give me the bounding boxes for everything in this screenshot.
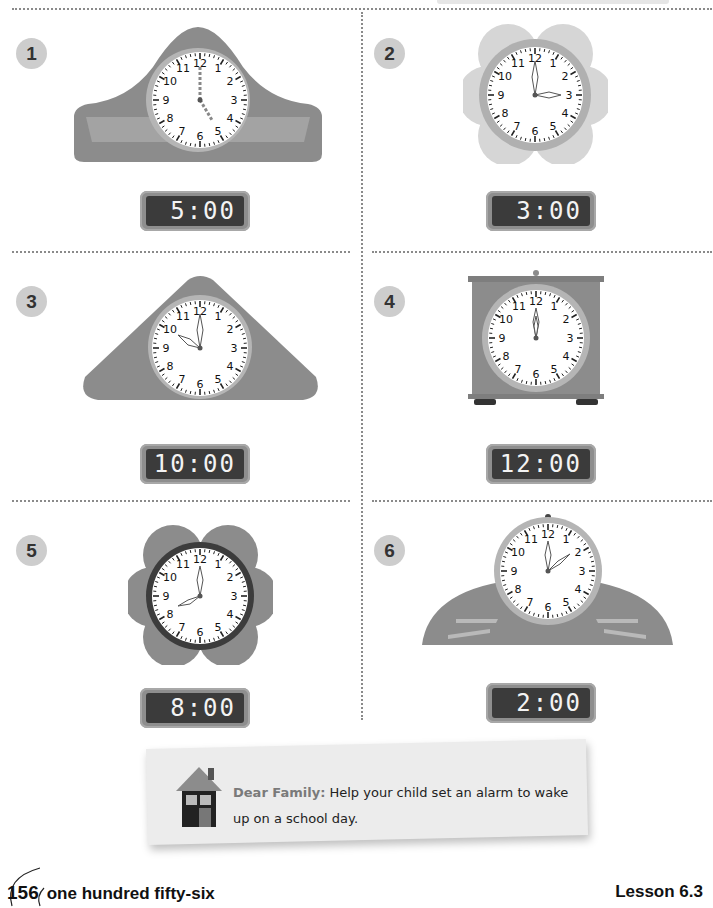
svg-text:1: 1 xyxy=(550,57,557,70)
clock-face: 12123 4567 891011 xyxy=(485,45,585,145)
svg-text:3: 3 xyxy=(231,342,238,355)
digital-clock-display: 10:00 xyxy=(140,444,250,484)
svg-text:9: 9 xyxy=(163,342,170,355)
svg-text:5: 5 xyxy=(550,120,557,133)
svg-text:5: 5 xyxy=(563,596,570,609)
family-note-text: Dear Family: Help your child set an alar… xyxy=(233,780,578,832)
problem-number-badge: 5 xyxy=(16,535,47,566)
svg-text:8: 8 xyxy=(167,360,174,373)
digital-time: 5:00 xyxy=(146,196,244,226)
digital-clock-display: 2:00 xyxy=(486,683,596,723)
svg-text:11: 11 xyxy=(176,62,190,75)
svg-text:4: 4 xyxy=(227,608,234,621)
svg-text:7: 7 xyxy=(179,621,186,634)
problem-number-badge: 1 xyxy=(16,38,47,69)
page-footer-number: 156one hundred fifty-six xyxy=(7,882,215,904)
svg-text:12: 12 xyxy=(529,295,543,308)
clock-face-svg: 12123 4567 891011 xyxy=(150,50,250,150)
svg-text:6: 6 xyxy=(545,601,552,614)
svg-text:9: 9 xyxy=(498,89,505,102)
svg-text:4: 4 xyxy=(575,583,582,596)
svg-text:10: 10 xyxy=(163,571,177,584)
svg-text:9: 9 xyxy=(511,565,518,578)
clock-face: 12123 4567 891011 xyxy=(150,50,250,150)
svg-text:3: 3 xyxy=(579,565,586,578)
svg-text:5: 5 xyxy=(551,363,558,376)
digital-time: 2:00 xyxy=(492,688,590,718)
svg-text:11: 11 xyxy=(176,558,190,571)
svg-text:2: 2 xyxy=(227,75,234,88)
svg-text:4: 4 xyxy=(563,350,570,363)
clock-face: 12123 4567 891011 xyxy=(150,298,250,398)
page-number-words: one hundred fifty-six xyxy=(47,884,215,903)
house-icon xyxy=(176,764,222,834)
svg-text:6: 6 xyxy=(533,368,540,381)
svg-text:10: 10 xyxy=(499,313,513,326)
svg-text:10: 10 xyxy=(498,70,512,83)
svg-text:10: 10 xyxy=(511,546,525,559)
problem-3: 3 12123 4567 891011 10:00 xyxy=(0,256,355,501)
top-strip xyxy=(437,0,669,4)
svg-text:8: 8 xyxy=(503,350,510,363)
clock-face: 12123 4567 891011 xyxy=(498,521,598,621)
svg-text:10: 10 xyxy=(163,75,177,88)
digital-clock-display: 3:00 xyxy=(486,191,596,231)
svg-text:9: 9 xyxy=(163,94,170,107)
svg-text:3: 3 xyxy=(231,590,238,603)
svg-text:12: 12 xyxy=(541,528,555,541)
svg-text:10: 10 xyxy=(163,323,177,336)
problem-2: 2 12123 4567 891011 3:00 xyxy=(358,8,713,253)
svg-text:3: 3 xyxy=(567,332,574,345)
svg-text:1: 1 xyxy=(215,310,222,323)
svg-text:6: 6 xyxy=(197,626,204,639)
svg-text:9: 9 xyxy=(163,590,170,603)
problem-4: 4 12123 4567 891011 12:00 xyxy=(358,256,713,501)
svg-text:8: 8 xyxy=(167,112,174,125)
problem-number-badge: 2 xyxy=(374,38,405,69)
problem-number-badge: 4 xyxy=(374,286,405,317)
svg-text:4: 4 xyxy=(227,112,234,125)
svg-text:6: 6 xyxy=(197,130,204,143)
svg-text:12: 12 xyxy=(193,553,207,566)
svg-text:5: 5 xyxy=(215,125,222,138)
svg-text:7: 7 xyxy=(515,363,522,376)
problem-number-badge: 6 xyxy=(374,535,405,566)
digital-time: 12:00 xyxy=(492,449,590,479)
svg-text:9: 9 xyxy=(499,332,506,345)
svg-text:1: 1 xyxy=(551,300,558,313)
lesson-label: Lesson 6.3 xyxy=(615,882,703,902)
family-note-lead: Dear Family: xyxy=(233,785,325,800)
svg-text:2: 2 xyxy=(563,313,570,326)
page-number: 156 xyxy=(7,882,39,903)
svg-text:8: 8 xyxy=(167,608,174,621)
digital-clock-display: 12:00 xyxy=(486,444,596,484)
problem-6: 6 12123 4567 891011 2:00 xyxy=(358,505,713,750)
digital-time: 3:00 xyxy=(492,196,590,226)
svg-text:11: 11 xyxy=(511,57,525,70)
svg-text:1: 1 xyxy=(563,533,570,546)
svg-text:7: 7 xyxy=(527,596,534,609)
svg-text:2: 2 xyxy=(562,70,569,83)
problem-number-badge: 3 xyxy=(16,286,47,317)
svg-text:1: 1 xyxy=(215,62,222,75)
svg-text:11: 11 xyxy=(512,300,526,313)
svg-text:2: 2 xyxy=(575,546,582,559)
clock-face: 12123 4567 891011 xyxy=(150,546,250,646)
clock-face: 12123 4567 891011 xyxy=(486,288,586,388)
svg-text:5: 5 xyxy=(215,621,222,634)
svg-text:2: 2 xyxy=(227,571,234,584)
svg-text:11: 11 xyxy=(524,533,538,546)
svg-text:7: 7 xyxy=(179,373,186,386)
svg-text:5: 5 xyxy=(215,373,222,386)
digital-time: 10:00 xyxy=(146,449,244,479)
digital-clock-display: 8:00 xyxy=(140,688,250,728)
problem-5: 5 12123 4567 891011 8:00 xyxy=(0,505,355,750)
svg-text:6: 6 xyxy=(532,125,539,138)
svg-text:2: 2 xyxy=(227,323,234,336)
problem-1: 1 12123 4567 891011 5:00 xyxy=(0,8,355,253)
digital-time: 8:00 xyxy=(146,693,244,723)
svg-text:3: 3 xyxy=(231,94,238,107)
svg-text:11: 11 xyxy=(176,310,190,323)
svg-text:4: 4 xyxy=(562,107,569,120)
svg-text:7: 7 xyxy=(179,125,186,138)
